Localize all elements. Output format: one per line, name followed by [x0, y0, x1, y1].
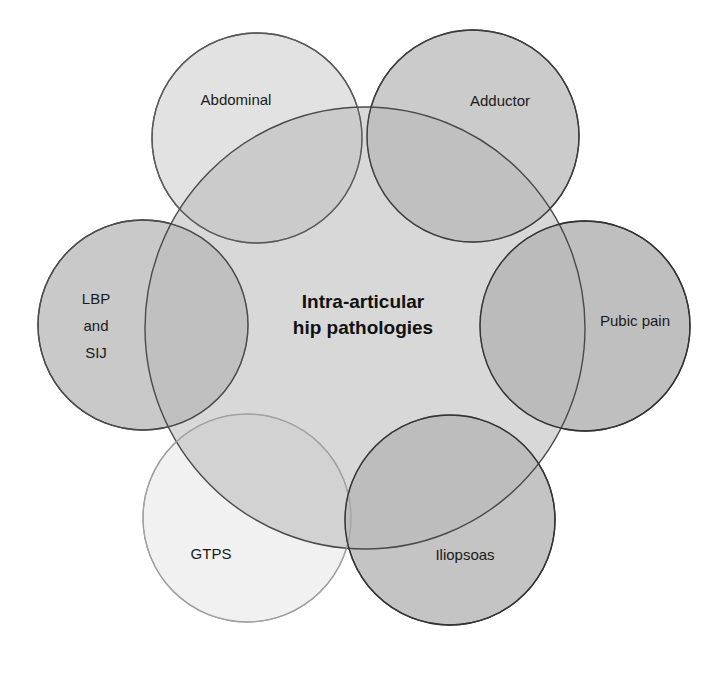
label-gtps: GTPS	[191, 545, 232, 562]
label-center-line2: hip pathologies	[293, 317, 433, 338]
label-iliopsoas: Iliopsoas	[435, 546, 494, 563]
label-adductor: Adductor	[470, 92, 530, 109]
label-pubic-pain: Pubic pain	[600, 312, 670, 329]
label-lbp: LBP	[82, 290, 110, 307]
label-center-line1: Intra-articular	[302, 291, 425, 312]
venn-diagram: Abdominal Adductor LBP and SIJ Pubic pai…	[0, 0, 724, 678]
label-lbp-and: and	[83, 317, 108, 334]
label-abdominal: Abdominal	[201, 91, 272, 108]
label-sij: SIJ	[85, 344, 107, 361]
